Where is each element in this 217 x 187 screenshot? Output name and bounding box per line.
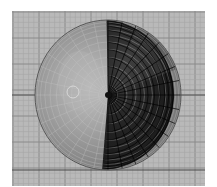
viewport-canvas[interactable] (12, 11, 205, 186)
sphere-mesh[interactable] (35, 20, 181, 170)
object-origin (105, 92, 111, 98)
3d-viewport[interactable] (12, 11, 205, 186)
